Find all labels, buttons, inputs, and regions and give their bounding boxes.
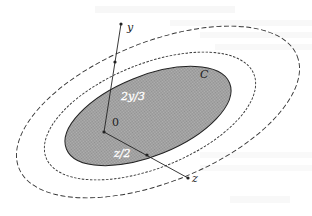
- z-label: z: [191, 172, 198, 185]
- y-point: [119, 22, 122, 25]
- convex-set-diagram: y 2y/3 C 0 z/2 z: [0, 0, 312, 216]
- z-point: [186, 176, 189, 179]
- z-scaled-point: [145, 153, 148, 156]
- y-scaled-point: [113, 60, 116, 63]
- y-label: y: [126, 21, 134, 34]
- origin-point: [102, 130, 105, 133]
- y-fraction-label: 2y/3: [120, 90, 145, 103]
- z-fraction-label: z/2: [113, 147, 131, 160]
- region-c-label: C: [200, 68, 209, 81]
- origin-label: 0: [112, 116, 119, 129]
